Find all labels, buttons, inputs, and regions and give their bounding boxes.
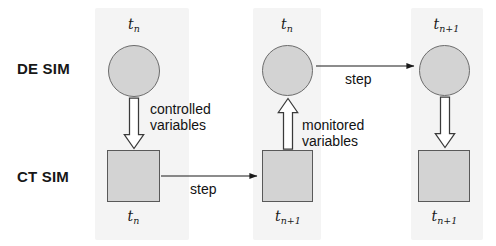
de-sim-node-2[interactable] [262, 45, 313, 96]
time-label-de-2: tn [262, 16, 312, 32]
time-label-ct-3: tn+1 [414, 208, 475, 224]
time-sub: n [287, 23, 293, 34]
row-label-ct-sim: CT SIM [17, 168, 69, 185]
de-sim-node-3[interactable] [419, 45, 470, 96]
edge-label-controlled-variables: controlled variables [150, 102, 211, 133]
time-label-ct-1: tn [107, 208, 160, 224]
ct-sim-node-3[interactable] [418, 150, 470, 202]
time-label-de-1: tn [108, 16, 160, 32]
de-sim-node-1[interactable] [108, 45, 160, 97]
time-base: t [281, 16, 287, 32]
time-base: t [275, 208, 281, 224]
time-sub: n+1 [281, 215, 301, 226]
time-sub: n+1 [439, 23, 459, 34]
time-sub: n [134, 23, 140, 34]
time-sub: n [133, 215, 139, 226]
diagram-canvas: DE SIM CT SIM tn tn controlled variables… [0, 0, 496, 246]
column-panel-3 [411, 8, 483, 240]
time-sub: n+1 [437, 215, 457, 226]
edge-label-monitored-variables: monitored variables [302, 118, 364, 149]
edge-label-ct-step: step [190, 182, 216, 198]
ct-sim-node-1[interactable] [107, 150, 160, 202]
time-base: t [128, 16, 134, 32]
edge-label-de-step: step [345, 72, 371, 88]
row-label-de-sim: DE SIM [17, 60, 70, 77]
time-label-ct-2: tn+1 [258, 208, 318, 224]
ct-sim-node-2[interactable] [262, 150, 313, 202]
time-label-de-3: tn+1 [415, 16, 478, 32]
